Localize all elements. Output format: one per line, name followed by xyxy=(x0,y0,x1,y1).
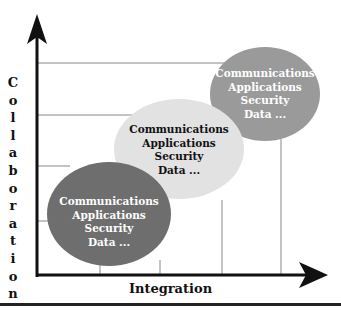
y-axis-label-letter: t xyxy=(10,232,16,250)
ellipse-mid-line: Applications xyxy=(127,137,231,151)
ellipse-low-line: Data ... xyxy=(58,236,160,250)
y-axis-label-letter: a xyxy=(9,215,17,233)
ellipse-high-line: Communications xyxy=(215,67,315,81)
ellipse-mid-text: Communications Applications Security Dat… xyxy=(127,123,231,177)
y-axis-label-letter: b xyxy=(8,162,17,180)
y-axis-label: Collaboration xyxy=(6,74,20,303)
y-axis-label-letter: i xyxy=(11,250,16,268)
bottom-divider xyxy=(0,303,341,306)
ellipse-high-line: Security xyxy=(215,94,315,108)
ellipse-mid-line: Communications xyxy=(127,123,231,137)
ellipse-low-text: Communications Applications Security Dat… xyxy=(58,195,160,249)
ellipse-low-line: Applications xyxy=(58,209,160,223)
ellipse-high-line: Data ... xyxy=(215,108,315,122)
x-axis-label: Integration xyxy=(0,281,341,296)
y-axis-label-letter: l xyxy=(11,127,16,145)
y-axis-label-letter: o xyxy=(9,92,18,110)
ellipse-mid-line: Security xyxy=(127,150,231,164)
y-axis xyxy=(27,14,47,277)
ellipse-low-line: Communications xyxy=(58,195,160,209)
y-axis-label-letter: r xyxy=(10,197,17,215)
y-axis-label-letter: o xyxy=(9,180,18,198)
y-axis-label-letter: l xyxy=(11,109,16,127)
y-axis-label-letter: C xyxy=(8,74,18,92)
y-axis-label-letter: a xyxy=(9,144,17,162)
ellipse-high-text: Communications Applications Security Dat… xyxy=(215,67,315,121)
ellipse-high-line: Applications xyxy=(215,81,315,95)
ellipse-low-line: Security xyxy=(58,222,160,236)
ellipse-mid-line: Data ... xyxy=(127,164,231,178)
